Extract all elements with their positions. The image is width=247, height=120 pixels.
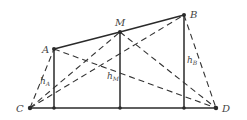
- point-m: [118, 30, 122, 34]
- label-c: C: [16, 103, 24, 114]
- foot-a: [52, 106, 56, 110]
- dashed-line-cb: [30, 15, 184, 108]
- foot-m: [118, 106, 122, 110]
- label-d: D: [221, 103, 230, 114]
- top-line-mb: [120, 15, 184, 32]
- label-h-a: hA: [40, 76, 51, 87]
- label-h-m: hM: [107, 71, 120, 82]
- foot-b: [182, 106, 186, 110]
- label-a: A: [41, 44, 49, 55]
- point-c: [28, 106, 32, 110]
- dashed-line-md: [120, 32, 216, 108]
- geometry-diagram: A M B C D hA hM hB: [0, 0, 247, 120]
- point-b: [182, 13, 186, 17]
- label-m: M: [114, 17, 126, 28]
- label-h-b: hB: [187, 55, 198, 66]
- point-d: [214, 106, 218, 110]
- label-b: B: [189, 9, 197, 20]
- point-a: [52, 47, 56, 51]
